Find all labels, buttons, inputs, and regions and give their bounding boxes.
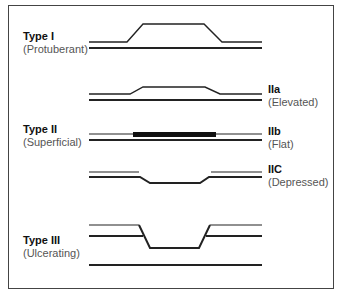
type3-profile xyxy=(89,225,262,265)
label-type2b-title: IIb xyxy=(268,125,294,138)
label-type2: Type II (Superficial) xyxy=(23,123,82,149)
label-type1-subtitle: (Protuberant) xyxy=(23,43,88,56)
label-type2-subtitle: (Superficial) xyxy=(23,136,82,149)
label-type2c: IIC (Depressed) xyxy=(268,163,329,189)
label-type2b: IIb (Flat) xyxy=(268,125,294,151)
label-type3-subtitle: (Ulcerating) xyxy=(23,247,80,260)
type2b-profile xyxy=(89,132,262,140)
type1-profile xyxy=(89,24,262,48)
label-type2c-title: IIC xyxy=(268,163,329,176)
label-type2a-title: IIa xyxy=(268,83,318,96)
type2a-profile xyxy=(89,87,262,100)
label-type1: Type I (Protuberant) xyxy=(23,30,88,56)
type2c-profile xyxy=(89,172,262,183)
label-type2a-subtitle: (Elevated) xyxy=(268,96,318,109)
label-type2-title: Type II xyxy=(23,123,82,136)
label-type2a: IIa (Elevated) xyxy=(268,83,318,109)
label-type1-title: Type I xyxy=(23,30,88,43)
label-type3-title: Type III xyxy=(23,234,80,247)
label-type3: Type III (Ulcerating) xyxy=(23,234,80,260)
label-type2b-subtitle: (Flat) xyxy=(268,138,294,151)
label-type2c-subtitle: (Depressed) xyxy=(268,176,329,189)
